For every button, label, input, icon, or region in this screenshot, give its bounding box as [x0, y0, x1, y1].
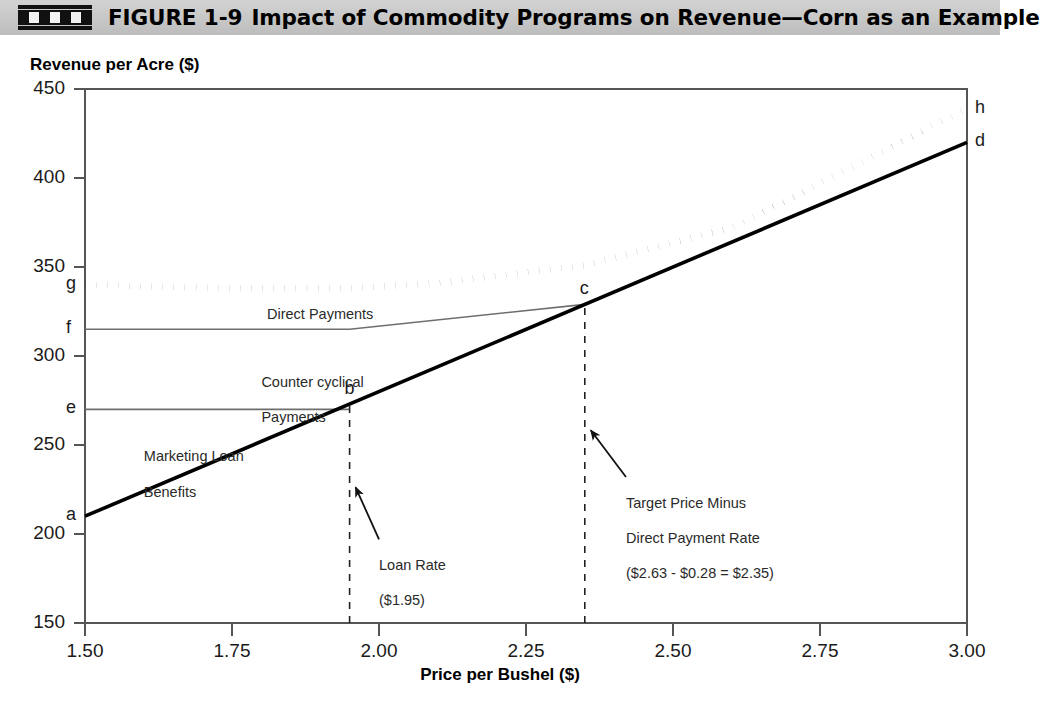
figure-marker-square-1 — [29, 12, 39, 23]
y-tick-300: 300 — [7, 344, 65, 366]
point-label-a: a — [66, 504, 76, 525]
x-tick-2-25: 2.25 — [491, 640, 561, 662]
y-tick-250: 250 — [7, 433, 65, 455]
figure-marker-squares — [18, 10, 92, 25]
figure-number: FIGURE 1-9 — [108, 5, 242, 30]
annotation-target-price: Target Price Minus Direct Payment Rate (… — [626, 477, 774, 601]
figure-header-band: FIGURE 1-9Impact of Commodity Programs o… — [0, 0, 1000, 35]
x-tick-2-75: 2.75 — [785, 640, 855, 662]
figure-marker-bottom-bar — [18, 26, 92, 30]
y-tick-350: 350 — [7, 255, 65, 277]
axes-group — [74, 89, 967, 636]
annotation-counter-cyclical-line-2: Payments — [261, 409, 363, 427]
x-tick-3-00: 3.00 — [932, 640, 1002, 662]
annotation-target-price-line-1: Target Price Minus — [626, 495, 774, 513]
figure-header-text: FIGURE 1-9Impact of Commodity Programs o… — [108, 5, 1040, 30]
annotation-loan-rate-line-1: Loan Rate — [379, 557, 446, 575]
annotation-marketing-loan-benefits: Marketing Loan Benefits — [144, 431, 244, 519]
annotation-direct-payments: Direct Payments — [267, 306, 373, 324]
y-tick-200: 200 — [7, 522, 65, 544]
x-tick-2-00: 2.00 — [344, 640, 414, 662]
chart-container: Revenue per Acre ($) Price per Bushel ($… — [0, 35, 1000, 701]
point-label-f: f — [66, 317, 71, 338]
annotation-counter-cyclical-payments: Counter cyclical Payments — [261, 356, 363, 444]
annotation-target-price-line-3: ($2.63 - $0.28 = $2.35) — [626, 565, 774, 583]
y-tick-450: 450 — [7, 77, 65, 99]
annotation-target-price-line-2: Direct Payment Rate — [626, 530, 774, 548]
point-label-e: e — [66, 397, 76, 418]
annotation-counter-cyclical-line-1: Counter cyclical — [261, 374, 363, 392]
y-tick-400: 400 — [7, 166, 65, 188]
annotation-loan-rate-line-2: ($1.95) — [379, 592, 446, 610]
figure-marker-top-bar — [18, 5, 92, 9]
figure-marker-icon — [18, 4, 92, 32]
x-tick-1-50: 1.50 — [50, 640, 120, 662]
x-tick-2-50: 2.50 — [638, 640, 708, 662]
plot-svg — [0, 35, 1000, 701]
y-tick-150: 150 — [7, 611, 65, 633]
figure-marker-square-2 — [50, 12, 60, 23]
annotation-loan-rate: Loan Rate ($1.95) — [379, 539, 446, 627]
figure-marker-square-3 — [71, 12, 81, 23]
x-tick-1-75: 1.75 — [197, 640, 267, 662]
point-label-d: d — [975, 130, 985, 151]
figure-title: Impact of Commodity Programs on Revenue—… — [251, 5, 1039, 30]
point-label-h: h — [975, 97, 985, 118]
annotation-marketing-loan-line-1: Marketing Loan — [144, 448, 244, 466]
annotation-marketing-loan-line-2: Benefits — [144, 484, 244, 502]
point-label-g: g — [66, 273, 76, 294]
point-label-c: c — [580, 278, 589, 299]
